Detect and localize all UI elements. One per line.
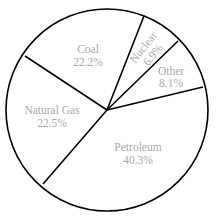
slice-label-natural-gas: Natural Gas	[24, 104, 80, 116]
slice-value-petroleum: 40.3%	[123, 154, 153, 166]
slice-value-other: 8.1%	[159, 77, 183, 89]
slice-value-coal: 22.2%	[73, 56, 103, 68]
slice-value-natural-gas: 22.5%	[37, 117, 67, 129]
pie-chart: Coal 22.2% Nuclear 6.9% Other 8.1% Natur…	[0, 0, 218, 224]
slice-label-other: Other	[158, 65, 184, 77]
slice-label-petroleum: Petroleum	[114, 141, 161, 153]
slice-label-coal: Coal	[77, 43, 99, 55]
